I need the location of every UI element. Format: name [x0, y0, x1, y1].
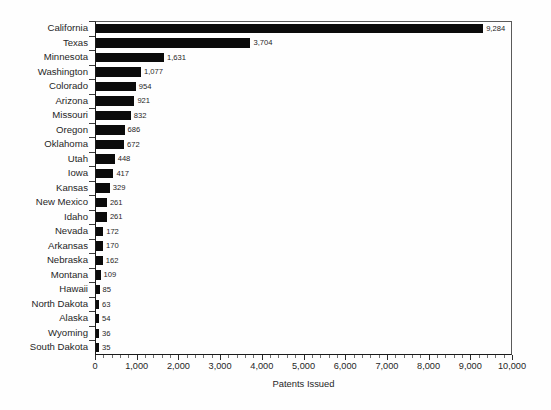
y-axis-tick: [89, 297, 95, 298]
bar[interactable]: [96, 212, 107, 221]
bar-row: Iowa417: [0, 166, 551, 181]
x-axis-minor-tick: [412, 355, 413, 358]
y-axis-tick: [89, 65, 95, 66]
bar[interactable]: [96, 96, 134, 105]
bar-with-label: 35: [96, 343, 110, 352]
x-axis-minor-tick: [312, 355, 313, 358]
bar-row: Minnesota1,631: [0, 50, 551, 65]
x-axis-minor-tick: [462, 355, 463, 358]
bar[interactable]: [96, 198, 107, 207]
y-axis-tick: [89, 79, 95, 80]
bar-row: Idaho261: [0, 210, 551, 225]
bar-value-label: 63: [102, 300, 110, 309]
bar[interactable]: [96, 270, 101, 279]
y-axis-tick: [89, 108, 95, 109]
x-axis-minor-tick: [487, 355, 488, 358]
bar[interactable]: [96, 82, 136, 91]
x-axis-minor-tick: [212, 355, 213, 358]
bar-with-label: 261: [96, 198, 123, 207]
bar-value-label: 832: [134, 111, 147, 120]
bar-with-label: 686: [96, 125, 140, 134]
bar-with-label: 261: [96, 212, 123, 221]
bar-row: California9,284: [0, 21, 551, 36]
bar[interactable]: [96, 343, 99, 352]
x-axis-minor-tick: [395, 355, 396, 358]
bar[interactable]: [96, 329, 99, 338]
bar[interactable]: [96, 24, 483, 33]
bar-value-label: 170: [106, 241, 119, 250]
category-label: Oklahoma: [0, 137, 88, 152]
x-axis-minor-tick: [120, 355, 121, 358]
bar[interactable]: [96, 300, 99, 309]
bar[interactable]: [96, 285, 100, 294]
bar-row: South Dakota35: [0, 340, 551, 355]
bar-with-label: 3,704: [96, 38, 272, 47]
x-axis-tick-label: 4,000: [250, 361, 273, 371]
x-axis-minor-tick: [329, 355, 330, 358]
bar[interactable]: [96, 183, 110, 192]
bar-with-label: 417: [96, 169, 129, 178]
x-axis-minor-tick: [112, 355, 113, 358]
bar-with-label: 36: [96, 329, 110, 338]
y-axis-tick: [89, 166, 95, 167]
category-label: North Dakota: [0, 297, 88, 312]
x-axis-tick-label: 7,000: [375, 361, 398, 371]
x-axis-major-tick: [95, 355, 96, 360]
x-axis-minor-tick: [253, 355, 254, 358]
category-label: Wyoming: [0, 326, 88, 341]
y-axis-tick: [89, 239, 95, 240]
bar-value-label: 417: [116, 169, 129, 178]
y-axis-tick: [89, 282, 95, 283]
bar[interactable]: [96, 169, 113, 178]
bar-with-label: 172: [96, 227, 119, 236]
y-axis-tick: [89, 123, 95, 124]
bar[interactable]: [96, 111, 131, 120]
category-label: Texas: [0, 36, 88, 51]
x-axis-minor-tick: [295, 355, 296, 358]
bar-with-label: 109: [96, 270, 116, 279]
bar[interactable]: [96, 53, 164, 62]
x-axis-major-tick: [387, 355, 388, 360]
bar[interactable]: [96, 154, 115, 163]
x-axis-tick-label: 8,000: [417, 361, 440, 371]
bar-with-label: 921: [96, 96, 150, 105]
bar-row: Arkansas170: [0, 239, 551, 254]
x-axis-major-tick: [345, 355, 346, 360]
x-axis-minor-tick: [504, 355, 505, 358]
category-label: Hawaii: [0, 282, 88, 297]
bar[interactable]: [96, 314, 99, 323]
x-axis-minor-tick: [270, 355, 271, 358]
bar[interactable]: [96, 140, 124, 149]
category-label: South Dakota: [0, 340, 88, 355]
bar-with-label: 9,284: [96, 24, 505, 33]
x-axis-tick-label: 10,000: [498, 361, 526, 371]
bar[interactable]: [96, 38, 250, 47]
category-label: Washington: [0, 65, 88, 80]
bar[interactable]: [96, 67, 141, 76]
x-axis-tick-label: 9,000: [459, 361, 482, 371]
x-axis-minor-tick: [103, 355, 104, 358]
bar-value-label: 172: [106, 227, 119, 236]
x-axis-minor-tick: [187, 355, 188, 358]
bar-with-label: 54: [96, 314, 110, 323]
bar-rows-container: California9,284Texas3,704Minnesota1,631W…: [0, 21, 551, 355]
bar-value-label: 329: [113, 183, 126, 192]
bar-with-label: 672: [96, 140, 140, 149]
bar[interactable]: [96, 241, 103, 250]
bar[interactable]: [96, 227, 103, 236]
x-axis-minor-tick: [153, 355, 154, 358]
x-axis-tick-label: 6,000: [334, 361, 357, 371]
category-label: Minnesota: [0, 50, 88, 65]
bar-row: Missouri832: [0, 108, 551, 123]
x-axis-major-tick: [470, 355, 471, 360]
bar-row: Kansas329: [0, 181, 551, 196]
x-axis-minor-tick: [278, 355, 279, 358]
x-axis-major-tick: [137, 355, 138, 360]
bar-value-label: 36: [102, 329, 110, 338]
x-axis-minor-tick: [320, 355, 321, 358]
bar[interactable]: [96, 125, 125, 134]
x-axis-minor-tick: [437, 355, 438, 358]
x-axis-minor-tick: [379, 355, 380, 358]
chart-page: California9,284Texas3,704Minnesota1,631W…: [0, 0, 551, 410]
bar[interactable]: [96, 256, 103, 265]
